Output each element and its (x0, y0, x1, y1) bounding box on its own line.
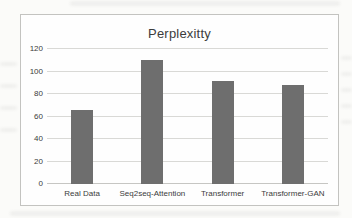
x-axis-category-label: Seq2seq-Attention (119, 189, 185, 198)
bar-transformer-gan (282, 85, 304, 184)
y-axis-tick-label: 20 (15, 158, 43, 166)
scan-artifact (341, 56, 352, 60)
bar-real-data (71, 110, 93, 184)
scan-artifact (341, 88, 352, 92)
scan-artifact (10, 211, 340, 216)
chart-frame: Perplexitty 020406080100120Real DataSeq2… (20, 14, 339, 206)
bar-transformer (212, 81, 234, 185)
scan-artifact (0, 128, 17, 132)
scan-artifact (0, 84, 17, 88)
gridline (47, 48, 328, 49)
x-axis-category-label: Transformer-GAN (261, 189, 324, 198)
x-axis-category-label: Real Data (64, 189, 100, 198)
scan-artifact (0, 106, 17, 110)
scan-artifact (70, 1, 340, 6)
scan-artifact (341, 104, 352, 108)
y-axis-tick-label: 100 (15, 68, 43, 76)
y-axis-tick-label: 60 (15, 113, 43, 121)
y-axis-tick-label: 0 (15, 180, 43, 188)
gridline (47, 71, 328, 72)
x-axis-category-label: Transformer (201, 189, 244, 198)
scan-artifact (341, 72, 352, 76)
scan-artifact (341, 120, 352, 124)
y-axis-tick-label: 80 (15, 90, 43, 98)
y-axis-tick-label: 120 (15, 45, 43, 53)
chart-title: Perplexitty (21, 26, 338, 41)
plot-area: 020406080100120Real DataSeq2seq-Attentio… (47, 49, 328, 184)
y-axis-tick-label: 40 (15, 135, 43, 143)
scanned-page: Perplexitty 020406080100120Real DataSeq2… (0, 0, 352, 218)
bar-seq2seq-attention (141, 60, 163, 184)
scan-artifact (0, 62, 17, 66)
